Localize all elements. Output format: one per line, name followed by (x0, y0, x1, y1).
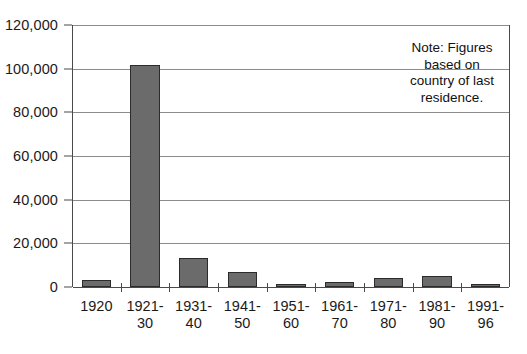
y-tick-mark (64, 25, 72, 26)
x-tick-label: 1981- 90 (413, 298, 462, 332)
chart-note-line: residence. (398, 90, 506, 107)
y-tick-label: 100,000 (5, 61, 58, 77)
x-tick-mark (169, 283, 170, 292)
x-tick-label: 1941- 50 (218, 298, 267, 332)
y-tick-mark (64, 112, 72, 113)
bar (228, 272, 257, 287)
bar (422, 276, 451, 287)
bar-chart: 120,000100,00080,00060,00040,00020,0000 … (0, 0, 527, 354)
bar (82, 280, 111, 287)
chart-note-line: country of last (398, 73, 506, 90)
y-tick-mark (64, 199, 72, 200)
chart-note: Note: Figuresbased oncountry of lastresi… (398, 40, 506, 106)
y-tick-label: 60,000 (13, 148, 58, 164)
x-axis: 19201921- 301931- 401941- 501951- 601961… (72, 287, 510, 354)
y-tick-mark (64, 156, 72, 157)
x-tick-label: 1920 (72, 298, 121, 315)
chart-note-line: Note: Figures (398, 40, 506, 57)
x-tick-label: 1921- 30 (121, 298, 170, 332)
x-tick-label: 1961- 70 (315, 298, 364, 332)
y-tick-label: 40,000 (13, 192, 58, 208)
y-tick-label: 120,000 (5, 17, 58, 33)
y-tick-mark (64, 68, 72, 69)
x-tick-mark (218, 283, 219, 292)
y-axis: 120,000100,00080,00060,00040,00020,0000 (0, 0, 72, 354)
x-tick-mark (413, 283, 414, 292)
x-tick-label: 1971- 80 (364, 298, 413, 332)
x-tick-label: 1951- 60 (267, 298, 316, 332)
bar (130, 65, 159, 287)
x-tick-label: 1931- 40 (169, 298, 218, 332)
chart-note-line: based on (398, 57, 506, 74)
x-tick-mark (364, 283, 365, 292)
y-tick-mark (64, 243, 72, 244)
y-tick-label: 80,000 (13, 104, 58, 120)
y-tick-mark (64, 287, 72, 288)
y-tick-label: 20,000 (13, 235, 58, 251)
x-tick-mark (315, 283, 316, 292)
bar (179, 258, 208, 287)
x-tick-mark (121, 283, 122, 292)
y-tick-label: 0 (50, 279, 58, 295)
x-tick-mark (267, 283, 268, 292)
bar (374, 278, 403, 287)
x-tick-mark (461, 283, 462, 292)
x-tick-label: 1991- 96 (461, 298, 510, 332)
